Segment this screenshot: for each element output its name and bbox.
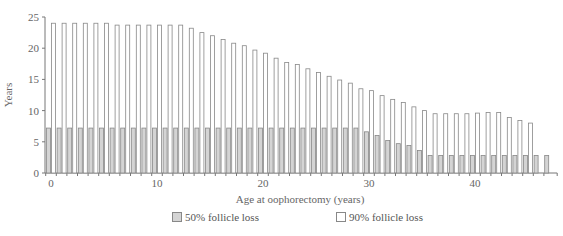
bar bbox=[396, 144, 400, 173]
y-tick-label: 15 bbox=[28, 73, 40, 85]
bar bbox=[290, 128, 294, 173]
bar bbox=[184, 128, 188, 173]
bar bbox=[312, 128, 316, 173]
bar bbox=[545, 156, 549, 173]
bar bbox=[136, 25, 140, 173]
bar bbox=[529, 123, 533, 173]
bar bbox=[153, 128, 157, 173]
legend: 50% follicle loss 90% follicle loss bbox=[0, 211, 563, 229]
legend-item-90: 90% follicle loss bbox=[336, 211, 423, 223]
bar bbox=[317, 73, 321, 173]
bar bbox=[179, 25, 183, 173]
bar bbox=[497, 112, 501, 173]
bar bbox=[524, 156, 528, 173]
bar bbox=[158, 25, 162, 173]
x-tick-label: 20 bbox=[258, 177, 270, 189]
bar bbox=[322, 128, 326, 173]
bar bbox=[126, 25, 130, 173]
x-tick-label: 0 bbox=[48, 177, 54, 189]
bar bbox=[380, 96, 384, 173]
legend-label: 90% follicle loss bbox=[349, 211, 423, 223]
bar bbox=[486, 112, 490, 173]
bar bbox=[195, 128, 199, 173]
bar bbox=[280, 128, 284, 173]
bar bbox=[83, 23, 87, 173]
bar bbox=[89, 128, 93, 173]
bar bbox=[439, 156, 443, 173]
bar bbox=[52, 23, 56, 173]
bar bbox=[269, 128, 273, 173]
bar bbox=[68, 128, 72, 173]
bar bbox=[465, 114, 469, 173]
bar bbox=[513, 156, 517, 173]
bar bbox=[460, 156, 464, 173]
y-axis-label: Years bbox=[2, 83, 14, 108]
bar bbox=[232, 43, 236, 173]
legend-label: 50% follicle loss bbox=[185, 211, 259, 223]
legend-swatch-white bbox=[336, 212, 346, 222]
bar bbox=[301, 128, 305, 173]
x-axis-label: Age at oophorectomy (years) bbox=[236, 193, 365, 206]
bar bbox=[253, 50, 257, 173]
bar bbox=[189, 28, 193, 173]
bar bbox=[94, 23, 98, 173]
bar bbox=[264, 53, 268, 173]
bar bbox=[375, 136, 379, 173]
bar bbox=[370, 91, 374, 173]
bar bbox=[200, 33, 204, 173]
y-tick-label: 20 bbox=[28, 42, 40, 54]
bar bbox=[386, 141, 390, 173]
bar bbox=[407, 146, 411, 173]
bar bbox=[354, 128, 358, 173]
bar bbox=[492, 156, 496, 173]
bar bbox=[221, 39, 225, 173]
bar bbox=[428, 156, 432, 173]
bar bbox=[168, 25, 172, 173]
legend-item-50: 50% follicle loss bbox=[172, 211, 259, 223]
bar bbox=[47, 128, 51, 173]
y-tick-label: 5 bbox=[34, 136, 40, 148]
bar bbox=[174, 128, 178, 173]
bar bbox=[433, 114, 437, 173]
bar bbox=[507, 117, 511, 173]
bar bbox=[471, 156, 475, 173]
x-axis: 010203040 bbox=[45, 173, 557, 189]
bar bbox=[333, 128, 337, 173]
bar bbox=[105, 23, 109, 173]
bars bbox=[47, 23, 549, 173]
bar bbox=[62, 23, 66, 173]
y-tick-label: 25 bbox=[28, 11, 40, 23]
bar bbox=[274, 58, 278, 173]
bar bbox=[206, 128, 210, 173]
bar bbox=[359, 89, 363, 173]
y-tick-label: 0 bbox=[34, 167, 40, 179]
bar bbox=[423, 111, 427, 173]
x-tick-label: 40 bbox=[470, 177, 482, 189]
bar bbox=[348, 83, 352, 173]
bar bbox=[163, 128, 167, 173]
bar bbox=[216, 128, 220, 173]
bar bbox=[454, 114, 458, 173]
bar bbox=[476, 113, 480, 173]
x-tick-label: 10 bbox=[152, 177, 164, 189]
bar bbox=[449, 156, 453, 173]
bar bbox=[391, 99, 395, 173]
legend-swatch-grey bbox=[172, 212, 182, 222]
bar bbox=[100, 128, 104, 173]
bar bbox=[248, 128, 252, 173]
bar bbox=[481, 156, 485, 173]
bar bbox=[115, 25, 119, 173]
bar bbox=[444, 114, 448, 173]
bar bbox=[365, 132, 369, 173]
bar-chart: 0510152025 010203040 Years Age at oophor… bbox=[0, 0, 563, 236]
bar bbox=[306, 69, 310, 173]
x-tick-label: 30 bbox=[364, 177, 376, 189]
bar bbox=[338, 80, 342, 173]
bar bbox=[227, 128, 231, 173]
bar bbox=[142, 128, 146, 173]
bar bbox=[418, 151, 422, 173]
bar bbox=[121, 128, 125, 173]
bar bbox=[242, 46, 246, 173]
bar bbox=[401, 102, 405, 173]
bar bbox=[147, 25, 151, 173]
